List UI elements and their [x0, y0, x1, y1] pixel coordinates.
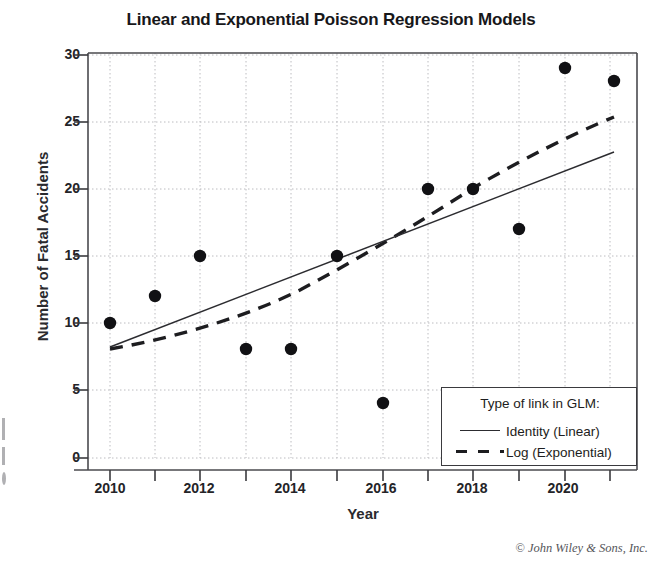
plot-area: [0, 0, 662, 573]
data-point: [422, 183, 434, 195]
legend-label-log-exponential: Log (Exponential): [506, 445, 612, 460]
data-points: [104, 62, 620, 409]
legend-title: Type of link in GLM:: [442, 396, 638, 411]
data-point: [467, 183, 479, 195]
y-axis-ticks: [74, 55, 88, 458]
legend-entry-log-exponential: Log (Exponential): [454, 442, 634, 462]
legend-swatch-dashed-line-icon: [454, 445, 506, 459]
data-point: [377, 397, 389, 409]
copyright-notice: © John Wiley & Sons, Inc.: [515, 541, 648, 556]
data-point: [285, 343, 297, 355]
legend-entry-identity-linear: Identity (Linear): [454, 421, 634, 441]
series-line-log-exponential: [110, 117, 614, 349]
data-point: [104, 317, 116, 329]
data-point: [149, 290, 161, 302]
legend: Type of link in GLM: Identity (Linear) L…: [441, 387, 637, 466]
scan-edge-artifact: [2, 447, 5, 465]
data-point: [240, 343, 252, 355]
legend-label-identity-linear: Identity (Linear): [506, 424, 600, 439]
x-axis-ticks: [110, 470, 610, 481]
legend-swatch-solid-line-icon: [454, 424, 506, 438]
data-point: [194, 250, 206, 262]
figure-container: Linear and Exponential Poisson Regressio…: [0, 0, 662, 573]
series-line-identity-linear: [110, 152, 614, 347]
data-point: [331, 250, 343, 262]
scan-edge-artifact: [2, 418, 5, 440]
scan-edge-artifact: [2, 472, 6, 485]
data-point: [608, 75, 620, 87]
data-point: [513, 223, 525, 235]
data-point: [559, 62, 571, 74]
